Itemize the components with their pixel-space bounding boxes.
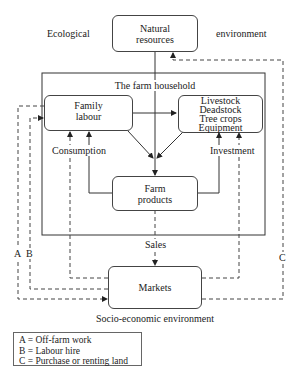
capital-box: Livestock Deadstock Tree crops Equipment	[178, 95, 263, 133]
legend-item-b: B = Labour hire	[19, 346, 141, 357]
consumption-label: Consumption	[52, 145, 106, 156]
socio-economic-label: Socio-economic environment	[96, 313, 211, 324]
family-labour-line1: Family	[74, 100, 102, 111]
capital-equipment: Equipment	[199, 123, 243, 132]
flow-a-label: A	[14, 248, 21, 259]
farm-products-line2: products	[138, 194, 172, 205]
legend-item-c: C = Purchase or renting land	[19, 356, 141, 367]
capital-to-products-arrow	[157, 132, 183, 158]
investment-arrow	[198, 133, 219, 193]
labour-to-products-arrow	[128, 131, 153, 158]
legend-item-a: A = Off-farm work	[19, 335, 141, 346]
household-title: The farm household	[110, 80, 200, 91]
natural-resources-box: Natural resources	[112, 15, 198, 52]
farm-products-line1: Farm	[144, 183, 165, 194]
markets-box: Markets	[108, 266, 202, 309]
family-labour-line2: labour	[76, 111, 102, 122]
markets-label: Markets	[139, 282, 172, 293]
natural-resources-line2: resources	[136, 34, 174, 45]
investment-label: Investment	[210, 145, 254, 156]
farm-products-box: Farm products	[112, 176, 198, 211]
flow-b-label: B	[26, 248, 33, 259]
environment-label: environment	[216, 28, 267, 39]
ecological-label: Ecological	[47, 28, 90, 39]
legend: A = Off-farm work B = Labour hire C = Pu…	[13, 332, 142, 366]
consumption-arrow	[89, 132, 112, 193]
natural-resources-line1: Natural	[140, 23, 170, 34]
family-labour-box: Family labour	[44, 95, 133, 131]
flow-a-offfarm-work	[18, 106, 107, 299]
sales-label: Sales	[145, 239, 166, 250]
flow-c-label: C	[279, 252, 286, 263]
